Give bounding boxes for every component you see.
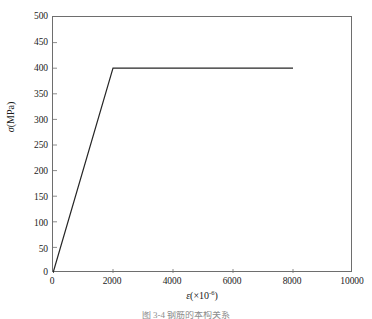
y-tick-label-150: 150 [8, 193, 48, 203]
x-axis-paren-open: (×10 [190, 290, 209, 301]
x-tick-label-6000: 6000 [202, 277, 262, 287]
y-tick-label-450: 450 [8, 38, 48, 48]
y-tick-label-50: 50 [8, 245, 48, 255]
stress-strain-curve [53, 68, 293, 273]
x-axis-ticks [113, 269, 293, 273]
x-tick-label-4000: 4000 [142, 277, 202, 287]
y-tick-label-200: 200 [8, 167, 48, 177]
x-tick-label-10000: 10000 [322, 277, 372, 287]
figure-container: σ(MPa) 500 450 400 350 300 250 200 150 1… [0, 0, 372, 319]
y-axis-symbol: σ [5, 127, 16, 132]
plot-area [52, 16, 352, 272]
y-tick-label-350: 350 [8, 90, 48, 100]
chart-canvas [53, 17, 353, 273]
y-tick-label-250: 250 [8, 141, 48, 151]
x-tick-label-2000: 2000 [82, 277, 142, 287]
x-tick-label-0: 0 [22, 277, 82, 287]
y-tick-label-100: 100 [8, 219, 48, 229]
x-tick-label-8000: 8000 [262, 277, 322, 287]
figure-caption: 图 3-4 钢筋的本构关系 [0, 311, 372, 319]
x-axis-title: ε(×10-6) [52, 291, 352, 301]
y-tick-label-500: 500 [8, 12, 48, 22]
x-axis-paren-close: ) [215, 290, 218, 301]
y-tick-label-400: 400 [8, 64, 48, 74]
y-axis-ticks [53, 43, 57, 248]
y-tick-label-300: 300 [8, 116, 48, 126]
